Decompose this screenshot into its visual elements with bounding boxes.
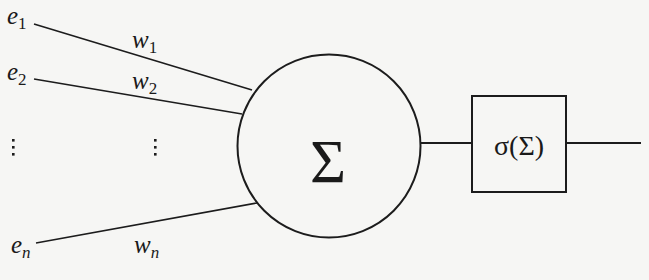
input-label-n: en: [11, 231, 31, 262]
neuron-diagram: e1 e2 en w1 w2 wn Σ σ(Σ): [0, 0, 649, 280]
ellipsis-weights-icon: [154, 139, 157, 156]
activation-label: σ(Σ): [494, 130, 544, 161]
weight-label-1: w1: [132, 26, 157, 57]
input-label-1: e1: [7, 2, 27, 33]
weight-label-n: wn: [134, 231, 159, 262]
input-label-2: e2: [7, 58, 27, 89]
summation-symbol: Σ: [310, 127, 346, 195]
weight-label-2: w2: [132, 67, 157, 98]
ellipsis-inputs-icon: [12, 139, 15, 156]
